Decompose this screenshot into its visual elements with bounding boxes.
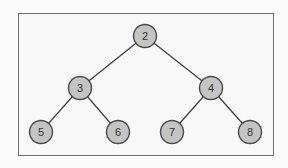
node-label: 3 xyxy=(77,82,83,94)
tree-node-8: 8 xyxy=(239,121,262,144)
node-label: 8 xyxy=(247,126,253,138)
tree-node-6: 6 xyxy=(107,121,130,144)
node-label: 2 xyxy=(142,30,148,42)
tree-diagram: 2 3 4 5 6 7 8 xyxy=(0,0,288,168)
tree-node-7: 7 xyxy=(161,121,184,144)
tree-node-2: 2 xyxy=(134,25,157,48)
tree-node-4: 4 xyxy=(200,77,223,100)
edge-2-3 xyxy=(80,36,145,88)
node-label: 7 xyxy=(169,126,175,138)
nodes: 2 3 4 5 6 7 8 xyxy=(30,25,262,144)
node-label: 6 xyxy=(115,126,121,138)
tree-node-5: 5 xyxy=(30,121,53,144)
node-label: 5 xyxy=(38,126,44,138)
edge-2-4 xyxy=(145,36,211,88)
node-label: 4 xyxy=(208,82,214,94)
tree-node-3: 3 xyxy=(69,77,92,100)
